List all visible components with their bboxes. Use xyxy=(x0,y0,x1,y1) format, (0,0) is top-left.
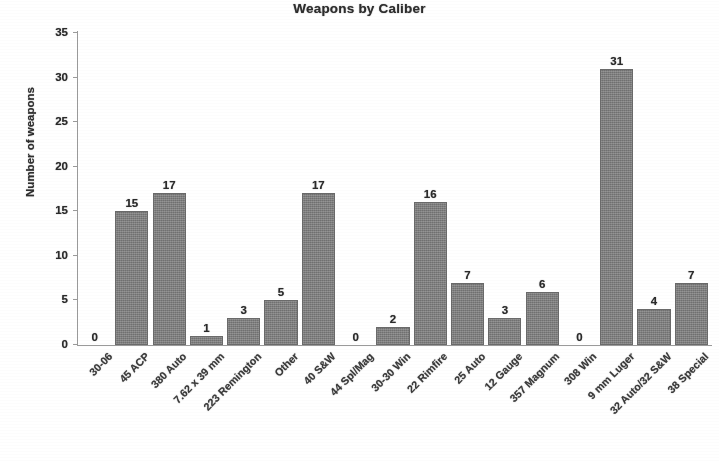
bar[interactable] xyxy=(414,202,447,345)
bar[interactable] xyxy=(227,318,260,345)
bar[interactable] xyxy=(190,336,223,345)
x-axis-label: 30-06 xyxy=(86,350,114,378)
bar-value-label: 0 xyxy=(77,331,112,343)
bar[interactable] xyxy=(153,193,186,345)
bar-value-label: 6 xyxy=(525,278,560,290)
x-axis-label: 25 Auto xyxy=(451,350,487,386)
bar-value-label: 5 xyxy=(263,286,298,298)
bar[interactable] xyxy=(302,193,335,345)
bar-value-label: 17 xyxy=(301,179,336,191)
bar-slot[interactable]: 0 xyxy=(338,33,373,345)
chart-title: Weapons by Caliber xyxy=(0,1,719,16)
bar-value-label: 0 xyxy=(562,331,597,343)
bar-slot[interactable]: 4 xyxy=(636,33,671,345)
bar-slot[interactable]: 1 xyxy=(189,33,224,345)
x-axis-label: 40 S&W xyxy=(301,350,338,387)
bar-value-label: 7 xyxy=(674,269,709,281)
bar-value-label: 0 xyxy=(338,331,373,343)
bar[interactable] xyxy=(488,318,521,345)
bar-value-label: 3 xyxy=(487,304,522,316)
bar-chart: Weapons by Caliber Number of weapons 051… xyxy=(0,0,719,461)
bar[interactable] xyxy=(264,300,297,345)
y-tick-label: 20 xyxy=(30,160,68,172)
y-axis-title: Number of weapons xyxy=(24,62,36,222)
y-tick-label: 25 xyxy=(30,115,68,127)
bar-value-label: 17 xyxy=(152,179,187,191)
bar-slot[interactable]: 15 xyxy=(114,33,149,345)
bar-value-label: 7 xyxy=(450,269,485,281)
y-tick-label: 30 xyxy=(30,71,68,83)
y-tick-label: 10 xyxy=(30,249,68,261)
x-axis-label: 45 ACP xyxy=(117,350,152,385)
x-axis-label: Other xyxy=(272,350,301,379)
bar-value-label: 31 xyxy=(599,55,634,67)
bar[interactable] xyxy=(526,292,559,345)
bar-value-label: 16 xyxy=(413,188,448,200)
bar[interactable] xyxy=(451,283,484,345)
x-axis-line xyxy=(77,345,712,346)
bar-slot[interactable]: 7 xyxy=(450,33,485,345)
bar-slot[interactable]: 0 xyxy=(562,33,597,345)
bar-value-label: 2 xyxy=(375,313,410,325)
y-tick-label: 0 xyxy=(30,338,68,350)
bar-value-label: 3 xyxy=(226,304,261,316)
bar[interactable] xyxy=(115,211,148,345)
bar-value-label: 1 xyxy=(189,322,224,334)
bar-slot[interactable]: 5 xyxy=(263,33,298,345)
bar-slot[interactable]: 3 xyxy=(487,33,522,345)
bar-value-label: 4 xyxy=(636,295,671,307)
bar-slot[interactable]: 16 xyxy=(413,33,448,345)
bar-value-label: 15 xyxy=(114,197,149,209)
y-tick-label: 5 xyxy=(30,293,68,305)
bar-slot[interactable]: 17 xyxy=(301,33,336,345)
bar[interactable] xyxy=(637,309,670,345)
bar-slot[interactable]: 7 xyxy=(674,33,709,345)
bar[interactable] xyxy=(675,283,708,345)
x-axis-label: 308 Win xyxy=(562,350,599,387)
bar-slot[interactable]: 3 xyxy=(226,33,261,345)
bar-slot[interactable]: 2 xyxy=(375,33,410,345)
bar-slot[interactable]: 17 xyxy=(152,33,187,345)
bar[interactable] xyxy=(376,327,409,345)
bar-slot[interactable]: 31 xyxy=(599,33,634,345)
bar-slot[interactable]: 0 xyxy=(77,33,112,345)
bar-slot[interactable]: 6 xyxy=(525,33,560,345)
bar[interactable] xyxy=(600,69,633,345)
y-tick-label: 15 xyxy=(30,204,68,216)
plot-area: 0151713517021673603147 xyxy=(77,33,711,345)
y-tick-label: 35 xyxy=(30,26,68,38)
